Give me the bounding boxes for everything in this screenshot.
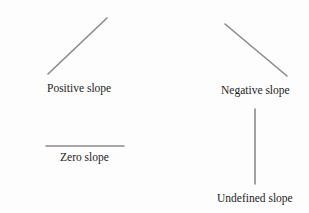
undefined-slope-label: Undefined slope	[217, 193, 293, 205]
negative-slope-line	[225, 24, 287, 76]
positive-slope-label: Positive slope	[47, 83, 111, 95]
slope-lines	[0, 0, 309, 213]
zero-slope-label: Zero slope	[60, 152, 109, 164]
positive-slope-line	[48, 18, 107, 74]
slope-diagram: Positive slope Negative slope Zero slope…	[0, 0, 309, 213]
negative-slope-label: Negative slope	[221, 85, 290, 97]
